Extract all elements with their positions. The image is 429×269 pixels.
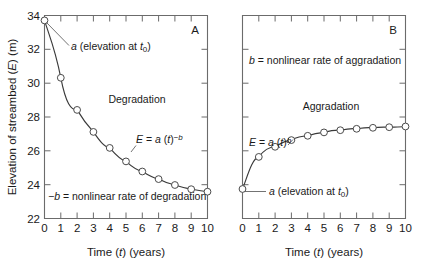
x-ticklabel-1: 1	[256, 222, 262, 234]
data-point	[57, 74, 64, 81]
x-ticklabel-6: 6	[337, 222, 343, 234]
panel-a-y-ticks	[45, 16, 51, 219]
data-point	[239, 186, 246, 193]
annotation-a-elevation-a: a (elevation at t0)	[71, 40, 151, 54]
data-point	[74, 107, 81, 114]
data-point	[90, 129, 97, 136]
x-ticklabel-8: 8	[172, 222, 178, 234]
panel-a-x-ticks	[45, 213, 208, 219]
figure-container: 22 24 26 28 30 32 34 0 1 2 3 4 5 6 7 8 9…	[0, 0, 429, 269]
region-label-degradation: Degradation	[108, 93, 165, 105]
series-aggradation-markers	[239, 123, 409, 192]
x-axis-label-a: Time (t) (years)	[87, 246, 165, 258]
y-ticklabel-32: 32	[27, 43, 40, 55]
x-ticklabel-8: 8	[370, 222, 376, 234]
annotation-b-rate-a: −b = nonlinear rate of degradation	[48, 190, 206, 202]
data-point	[386, 124, 393, 131]
x-ticklabel-3: 3	[90, 222, 96, 234]
panel-b-y-ticks-right	[400, 49, 406, 184]
x-ticklabel-0: 0	[239, 222, 245, 234]
x-ticklabel-2: 2	[272, 222, 278, 234]
x-axis-label-b: Time (t) (years)	[285, 246, 363, 258]
y-ticklabel-24: 24	[27, 179, 40, 191]
panel-b: 0 1 2 3 4 5 6 7 8 9 10 Time (t) (years)	[239, 16, 412, 259]
x-ticklabel-10: 10	[201, 222, 214, 234]
panel-b-x-ticklabels: 0 1 2 3 4 5 6 7 8 9 10	[239, 222, 412, 234]
x-ticklabel-4: 4	[304, 222, 311, 234]
data-point	[139, 168, 146, 175]
x-ticklabel-5: 5	[123, 222, 129, 234]
y-ticklabel-28: 28	[27, 111, 40, 123]
x-ticklabel-0: 0	[41, 222, 47, 234]
x-ticklabel-1: 1	[58, 222, 64, 234]
x-ticklabel-10: 10	[399, 222, 412, 234]
x-ticklabel-5: 5	[321, 222, 327, 234]
region-label-aggradation: Aggradation	[303, 100, 360, 112]
panel-a-y-ticklabels: 22 24 26 28 30 32 34	[27, 10, 40, 225]
x-ticklabel-3: 3	[288, 222, 294, 234]
data-point	[402, 123, 409, 130]
panel-a-x-ticklabels: 0 1 2 3 4 5 6 7 8 9 10	[41, 222, 214, 234]
annotation-b-rate-b: b = nonlinear rate of aggradation	[249, 54, 401, 66]
data-point	[123, 158, 130, 165]
panel-a-x-ticks-top	[61, 16, 191, 22]
x-ticklabel-6: 6	[139, 222, 145, 234]
data-point	[337, 127, 344, 134]
panel-letter-b: B	[389, 24, 397, 36]
y-ticklabel-30: 30	[27, 77, 40, 89]
data-point	[370, 124, 377, 131]
x-ticklabel-2: 2	[74, 222, 80, 234]
y-ticklabel-26: 26	[27, 145, 40, 157]
equation-a: E = a (t)−b	[136, 133, 183, 145]
data-point	[172, 182, 179, 189]
panel-b-x-ticks	[243, 213, 406, 219]
leader-a-elevation-a	[47, 23, 70, 46]
x-ticklabel-4: 4	[106, 222, 113, 234]
panel-b-y-ticks	[243, 49, 249, 184]
data-point	[321, 129, 328, 136]
y-ticklabel-22: 22	[27, 213, 40, 225]
figure-svg: 22 24 26 28 30 32 34 0 1 2 3 4 5 6 7 8 9…	[0, 0, 429, 269]
data-point	[353, 125, 360, 132]
x-ticklabel-9: 9	[188, 222, 194, 234]
data-point	[304, 132, 311, 139]
panel-a: 22 24 26 28 30 32 34 0 1 2 3 4 5 6 7 8 9…	[6, 10, 214, 259]
panel-a-y-ticks-right	[202, 49, 208, 184]
x-ticklabel-9: 9	[386, 222, 392, 234]
x-ticklabel-7: 7	[353, 222, 359, 234]
data-point	[155, 176, 162, 183]
panel-letter-a: A	[191, 24, 199, 36]
annotation-a-elevation-b: a (elevation at t0)	[269, 185, 349, 199]
y-axis-label: Elevation of streambed (E) (m)	[6, 39, 18, 196]
x-ticklabel-7: 7	[155, 222, 161, 234]
leader-equation-a	[131, 146, 136, 153]
y-ticklabel-34: 34	[27, 10, 40, 22]
panel-b-x-ticks-top	[259, 16, 389, 22]
data-point	[106, 145, 113, 152]
equation-b: E = a (t)b	[249, 136, 292, 148]
data-point	[255, 154, 262, 161]
